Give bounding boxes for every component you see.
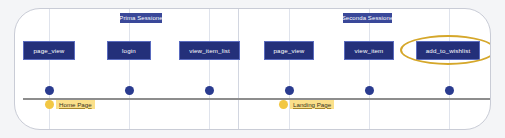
legend-dot-icon <box>279 100 288 109</box>
legend-item-0: Home Page <box>45 99 95 110</box>
legend-label: Home Page <box>56 100 95 110</box>
timeline-node-5[interactable] <box>445 86 454 95</box>
legend-dot-icon <box>45 100 54 109</box>
event-box-view_item_list[interactable]: view_item_list <box>179 41 240 60</box>
legend-label: Landing Page <box>290 100 334 110</box>
session-divider <box>238 8 239 130</box>
timeline-node-2[interactable] <box>205 86 214 95</box>
event-box-page_view[interactable]: page_view <box>264 41 314 60</box>
timeline-node-1[interactable] <box>125 86 134 95</box>
session-label-2: Seconda Sessione <box>343 13 392 23</box>
diagram-canvas: Prima SessioneSeconda Sessione page_view… <box>0 0 505 138</box>
timeline-node-3[interactable] <box>285 86 294 95</box>
event-box-page_view[interactable]: page_view <box>23 41 75 60</box>
timeline-node-0[interactable] <box>45 86 54 95</box>
highlight-ellipse-add-to-wishlist <box>400 35 491 65</box>
event-box-login[interactable]: login <box>107 41 151 60</box>
legend-item-1: Landing Page <box>279 99 334 110</box>
session-label-1: Prima Sessione <box>120 13 162 23</box>
event-box-view_item[interactable]: view_item <box>344 41 394 60</box>
timeline-node-4[interactable] <box>365 86 374 95</box>
timeline-card: Prima SessioneSeconda Sessione page_view… <box>14 8 491 130</box>
